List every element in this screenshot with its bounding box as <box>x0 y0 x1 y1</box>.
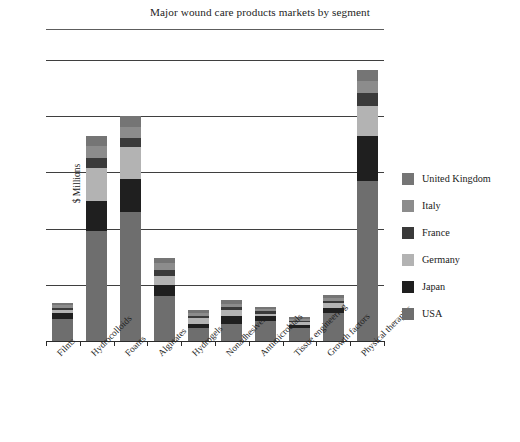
chart-figure: Major wound care products markets by seg… <box>0 0 520 442</box>
bar-segment <box>86 146 107 157</box>
legend-item[interactable]: USA <box>402 308 491 320</box>
legend-label: Italy <box>422 200 441 212</box>
bar-segment <box>357 93 378 106</box>
bar-segment <box>154 270 175 277</box>
title-divider <box>46 29 384 30</box>
bar-segment <box>86 231 107 341</box>
bar-segment <box>120 116 141 127</box>
legend-label: Germany <box>422 254 460 266</box>
y-axis-label: $ Millions <box>71 124 82 244</box>
bar-physical-therapies <box>357 70 378 341</box>
bar-segment <box>357 136 378 181</box>
bar-segment <box>86 158 107 169</box>
bar-segment <box>154 276 175 284</box>
bar-segment <box>154 285 175 296</box>
bar-segment <box>120 147 141 179</box>
bar-segment <box>120 138 141 147</box>
bar-segment <box>357 106 378 136</box>
legend-label: France <box>422 227 450 239</box>
legend-item[interactable]: Italy <box>402 200 491 212</box>
legend-swatch-icon <box>402 173 414 185</box>
bar-segment <box>120 179 141 211</box>
legend-item[interactable]: United Kingdom <box>402 173 491 185</box>
bar-hydrocolloids <box>86 136 107 341</box>
bar-alginates <box>154 258 175 341</box>
bar-segment <box>86 168 107 200</box>
bar-segment <box>120 127 141 138</box>
legend-label: USA <box>422 308 442 320</box>
bar-group <box>46 60 384 341</box>
legend-item[interactable]: France <box>402 227 491 239</box>
legend-swatch-icon <box>402 200 414 212</box>
legend-swatch-icon <box>402 308 414 320</box>
legend-label: United Kingdom <box>422 173 491 185</box>
bar-segment <box>357 81 378 93</box>
chart-legend: United KingdomItalyFranceGermanyJapanUSA <box>402 173 491 335</box>
bar-foams <box>120 116 141 341</box>
legend-swatch-icon <box>402 281 414 293</box>
legend-item[interactable]: Japan <box>402 281 491 293</box>
bar-segment <box>357 70 378 81</box>
legend-label: Japan <box>422 281 445 293</box>
legend-swatch-icon <box>402 227 414 239</box>
plot-area: $ Millions <box>46 60 384 341</box>
chart-title: Major wound care products markets by seg… <box>0 6 520 18</box>
bar-segment <box>221 316 242 324</box>
legend-swatch-icon <box>402 254 414 266</box>
bar-segment <box>86 201 107 232</box>
x-axis-labels: FilmsHydrocolloidsFoamsAlginatesHydrogel… <box>46 341 406 441</box>
bar-segment <box>86 136 107 146</box>
legend-item[interactable]: Germany <box>402 254 491 266</box>
